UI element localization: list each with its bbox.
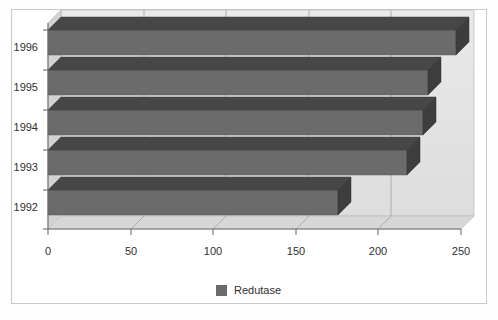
bar-1995-top [48, 57, 441, 70]
y-label-1992: 1992 [14, 201, 38, 213]
y-axis-labels: 1996 1995 1994 1993 1992 [14, 41, 38, 213]
x-label-50: 50 [125, 245, 137, 257]
bar-1992-top [48, 177, 351, 190]
x-axis-labels: 0 50 100 150 200 250 [45, 245, 470, 257]
bar-1996-front [48, 30, 456, 55]
bar-1996[interactable] [48, 17, 469, 55]
y-label-1996: 1996 [14, 41, 38, 53]
bar-1993[interactable] [48, 137, 420, 175]
y-axis-ticks [43, 30, 48, 229]
floor [48, 216, 474, 229]
bar-1995-front [48, 70, 428, 95]
bar-1994-front [48, 110, 423, 135]
x-label-150: 150 [287, 245, 305, 257]
y-label-1994: 1994 [14, 121, 38, 133]
chart-root: 1996 1995 1994 1993 1992 0 50 100 150 20… [0, 0, 498, 320]
legend-swatch-redutase [216, 285, 227, 296]
bar-1992-front [48, 190, 338, 215]
x-label-0: 0 [45, 245, 51, 257]
bar-1993-top [48, 137, 420, 150]
x-label-100: 100 [204, 245, 222, 257]
bar-1994-top [48, 97, 436, 110]
bar-1996-top [48, 17, 469, 30]
legend-label-redutase: Redutase [234, 284, 281, 296]
bar-1994[interactable] [48, 97, 436, 135]
x-label-250: 250 [452, 245, 470, 257]
x-label-200: 200 [369, 245, 387, 257]
bar-1992[interactable] [48, 177, 351, 215]
bar-1993-front [48, 150, 407, 175]
x-axis-ticks [48, 229, 461, 235]
chart-legend[interactable]: Redutase [216, 284, 281, 296]
y-label-1993: 1993 [14, 161, 38, 173]
bar-chart-canvas: 1996 1995 1994 1993 1992 0 50 100 150 20… [0, 0, 498, 320]
bar-1995[interactable] [48, 57, 441, 95]
y-label-1995: 1995 [14, 81, 38, 93]
